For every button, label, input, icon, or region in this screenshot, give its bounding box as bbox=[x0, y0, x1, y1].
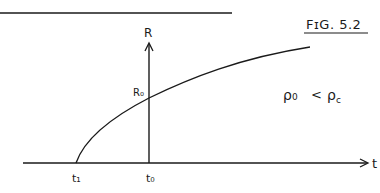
t0-label: t₀ bbox=[146, 172, 155, 185]
t1-label: t₁ bbox=[72, 172, 81, 185]
figure-label: FɪG. 5.2 bbox=[306, 17, 361, 32]
condition-left: ρ₀ bbox=[283, 87, 298, 103]
figure-5-2: FɪG. 5.2 t R R₀ t₁ t₀ ρ₀ < ρ c bbox=[0, 0, 380, 193]
r-of-t-curve bbox=[76, 47, 310, 163]
r-axis-label: R bbox=[144, 26, 152, 40]
condition-right-subscript: c bbox=[336, 95, 341, 105]
r0-label: R₀ bbox=[133, 87, 144, 98]
condition-right: ρ bbox=[327, 87, 336, 103]
t-axis-label: t bbox=[372, 156, 377, 171]
condition-operator: < bbox=[311, 87, 322, 102]
